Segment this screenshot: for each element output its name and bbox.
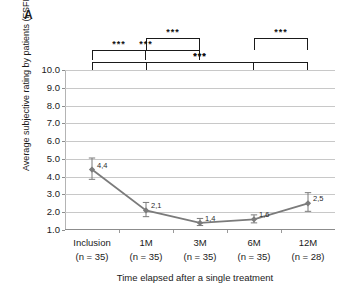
- y-tick-label: 4.0: [47, 172, 60, 182]
- data-point-marker: [305, 200, 311, 206]
- y-tick-label: 6.0: [47, 136, 60, 146]
- y-tick-label: 10.0: [42, 65, 61, 75]
- series-line: [92, 170, 308, 223]
- data-point-marker: [251, 216, 257, 222]
- significance-bracket: [146, 62, 254, 70]
- y-tick-label: 2.0: [47, 207, 60, 217]
- x-tick-label-name: 3M: [193, 237, 206, 248]
- data-point-label: 2,5: [313, 195, 323, 203]
- data-point-label: 2,1: [151, 202, 161, 210]
- data-point-label: 1,6: [259, 211, 269, 219]
- y-tick-mark: [62, 230, 65, 231]
- significance-stars: ***: [193, 52, 207, 61]
- significance-stars: ***: [112, 40, 126, 49]
- x-tick-mark: [173, 230, 174, 233]
- y-tick-label: 9.0: [47, 83, 60, 93]
- x-tick-label: 12M(n = 28): [271, 236, 343, 263]
- significance-stars: ***: [193, 52, 207, 61]
- significance-stars: ***: [166, 28, 180, 37]
- significance-bracket: [254, 38, 308, 50]
- y-axis-title: Average subjective rating by patients (F…: [21, 0, 32, 172]
- data-series: [65, 70, 335, 230]
- y-tick-label: 5.0: [47, 154, 60, 164]
- plot-area: 10.09.08.07.06.05.04.03.02.01.0 4,42,11,…: [65, 70, 335, 230]
- y-tick-label: 8.0: [47, 101, 60, 111]
- x-tick-mark: [227, 230, 228, 233]
- significance-stars: ***: [274, 28, 288, 37]
- significance-bracket: [92, 50, 200, 60]
- figure-panel-a: A Average subjective rating by patients …: [0, 0, 343, 296]
- x-tick-label-name: 1M: [139, 237, 152, 248]
- significance-bracket: [92, 50, 146, 60]
- significance-bracket: [146, 38, 200, 50]
- data-point-label: 1,4: [205, 215, 215, 223]
- y-tick-label: 1.0: [47, 225, 60, 235]
- significance-bracket: [92, 62, 308, 70]
- x-tick-label-name: Inclusion: [73, 237, 111, 248]
- significance-stars: ***: [139, 40, 153, 49]
- x-tick-mark: [119, 230, 120, 233]
- x-tick-mark: [281, 230, 282, 233]
- x-tick-label-name: 12M: [299, 237, 317, 248]
- data-point-label: 4,4: [97, 162, 107, 170]
- y-tick-label: 3.0: [47, 189, 60, 199]
- x-tick-label-count: (n = 28): [271, 250, 343, 264]
- x-axis-title: Time elapsed after a single treatment: [55, 272, 335, 284]
- y-tick-label: 7.0: [47, 118, 60, 128]
- x-tick-label-name: 6M: [247, 237, 260, 248]
